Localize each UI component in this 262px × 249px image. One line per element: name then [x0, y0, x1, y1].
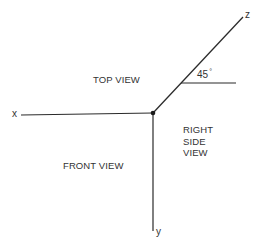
origin-point [151, 111, 156, 116]
angle-label: 45° [197, 68, 212, 80]
diagram-canvas [0, 0, 262, 249]
z-axis-label: z [245, 10, 250, 20]
angle-value: 45 [197, 69, 208, 80]
x-axis-label: x [12, 109, 17, 119]
front-view-label: FRONT VIEW [63, 161, 123, 171]
right-side-view-label: RIGHT SIDE VIEW [183, 124, 213, 159]
degree-symbol: ° [209, 68, 212, 75]
z-axis-line [153, 17, 243, 113]
right-side-view-line-2: SIDE [183, 136, 213, 148]
top-view-label: TOP VIEW [93, 75, 140, 85]
y-axis-label: y [156, 227, 161, 237]
x-axis-line [21, 113, 153, 115]
right-side-view-line-3: VIEW [183, 147, 213, 159]
right-side-view-line-1: RIGHT [183, 124, 213, 136]
